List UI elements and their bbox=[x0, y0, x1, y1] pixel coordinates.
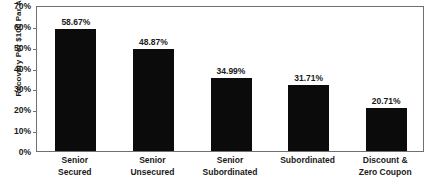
y-axis-tick-label: 10% bbox=[14, 126, 31, 136]
category-label-line: Senior bbox=[203, 155, 258, 167]
category-label-line: Zero Coupon bbox=[359, 167, 412, 179]
y-axis-tick-mark bbox=[33, 111, 37, 112]
y-axis-tick-mark bbox=[33, 28, 37, 29]
bar bbox=[55, 29, 96, 151]
x-axis-category-label: Discount &Zero Coupon bbox=[359, 155, 412, 178]
bar-chart: Recovery Per $100 Par Amount 70%60%50%40… bbox=[0, 0, 435, 191]
bar bbox=[211, 78, 252, 151]
x-axis-category-label: SeniorSubordinated bbox=[203, 155, 258, 178]
x-axis-category-label: Subordinated bbox=[280, 155, 335, 167]
bar bbox=[366, 108, 407, 151]
y-axis-tick-label: 60% bbox=[14, 22, 31, 32]
bar-value-label: 48.87% bbox=[139, 37, 168, 47]
bar-value-label: 58.67% bbox=[61, 17, 90, 27]
category-label-line: Secured bbox=[58, 167, 92, 179]
y-axis-tick-label: 0% bbox=[19, 147, 31, 157]
category-label-line: Subordinated bbox=[203, 167, 258, 179]
y-axis-tick-mark bbox=[33, 132, 37, 133]
y-axis-tick-label: 50% bbox=[14, 43, 31, 53]
category-label-line: Unsecured bbox=[130, 167, 174, 179]
plot-area: 58.67%48.87%34.99%31.71%20.71% bbox=[36, 6, 424, 152]
y-axis-tick-label: 70% bbox=[14, 1, 31, 11]
bar-value-label: 31.71% bbox=[294, 73, 323, 83]
bar-series: 58.67%48.87%34.99%31.71%20.71% bbox=[37, 7, 423, 151]
x-axis-category-labels: SeniorSecuredSeniorUnsecuredSeniorSubord… bbox=[36, 155, 424, 191]
category-label-line: Discount & bbox=[359, 155, 412, 167]
y-axis-tick-mark bbox=[33, 49, 37, 50]
bar-value-label: 34.99% bbox=[217, 66, 246, 76]
bar bbox=[288, 85, 329, 151]
bar-value-label: 20.71% bbox=[372, 96, 401, 106]
y-axis-tick-label: 30% bbox=[14, 84, 31, 94]
bar bbox=[133, 49, 174, 151]
category-label-line: Senior bbox=[130, 155, 174, 167]
y-axis-tick-mark bbox=[33, 70, 37, 71]
y-axis-tick-label: 40% bbox=[14, 64, 31, 74]
x-axis-category-label: SeniorSecured bbox=[58, 155, 92, 178]
x-axis-category-label: SeniorUnsecured bbox=[130, 155, 174, 178]
category-label-line: Subordinated bbox=[280, 155, 335, 167]
y-axis-tick-labels: 70%60%50%40%30%20%10%0% bbox=[0, 0, 36, 191]
category-label-line: Senior bbox=[58, 155, 92, 167]
y-axis-tick-label: 20% bbox=[14, 105, 31, 115]
y-axis-tick-mark bbox=[33, 90, 37, 91]
